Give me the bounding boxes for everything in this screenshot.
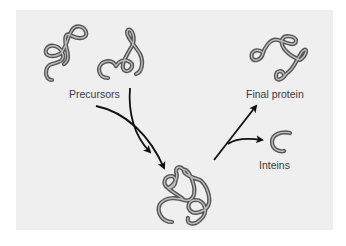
protein-splicing-diagram [0, 0, 346, 246]
inteins-label: Inteins [259, 159, 290, 171]
inteins-strand-icon [272, 132, 290, 151]
arrow-precursor-1-to-intermediate [96, 106, 164, 168]
precursor-2-strand-icon [99, 30, 142, 78]
intermediate-strand-icon [159, 167, 210, 223]
precursors-label: Precursors [69, 88, 120, 100]
precursor-1-strand-icon [46, 26, 87, 80]
arrow-intermediate-to-final-protein [214, 106, 256, 160]
arrow-precursor-2-to-intermediate [130, 88, 150, 152]
final-protein-strand-icon [252, 36, 306, 79]
final-protein-label: Final protein [246, 88, 304, 100]
arrow-intermediate-to-inteins [228, 139, 262, 144]
